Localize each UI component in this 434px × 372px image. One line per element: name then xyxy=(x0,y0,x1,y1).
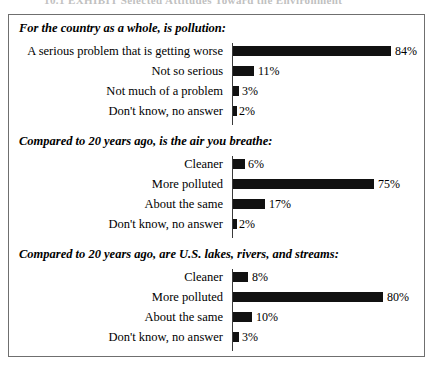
bar-row: More polluted 80% xyxy=(9,289,426,307)
chart-panel-1: For the country as a whole, is pollution… xyxy=(9,21,426,129)
bar xyxy=(233,219,237,229)
bar-row: Not much of a problem 3% xyxy=(9,83,426,101)
bar xyxy=(233,312,252,322)
bar xyxy=(233,106,237,116)
figure-frame: For the country as a whole, is pollution… xyxy=(8,14,425,357)
bar-row: About the same 10% xyxy=(9,309,426,327)
bar-row: Don't know, no answer 2% xyxy=(9,216,426,234)
bar-row: Don't know, no answer 2% xyxy=(9,103,426,121)
bar xyxy=(233,46,391,56)
bar-row: About the same 17% xyxy=(9,196,426,214)
bar-row: Cleaner 8% xyxy=(9,269,426,287)
bar xyxy=(233,332,239,342)
bar-row-label: More polluted xyxy=(9,290,227,305)
figure-caption-strip: 10.1 EXHIBIT Selected Attitudes Toward t… xyxy=(0,0,434,8)
bar-value: 2% xyxy=(239,217,255,232)
bar-value: 80% xyxy=(387,290,409,305)
bar-value: 75% xyxy=(378,177,400,192)
bar xyxy=(233,159,245,169)
bar-value: 3% xyxy=(242,330,258,345)
bar-row-label: About the same xyxy=(9,197,227,212)
bar-row: Not so serious 11% xyxy=(9,63,426,81)
bar-row-label: A serious problem that is getting worse xyxy=(9,44,227,59)
bar xyxy=(233,272,248,282)
bar-value: 11% xyxy=(258,64,280,79)
bar-row-label: Don't know, no answer xyxy=(9,330,227,345)
bar-row-label: About the same xyxy=(9,310,227,325)
panel-1-heading: For the country as a whole, is pollution… xyxy=(19,21,226,35)
bar-row-label: Cleaner xyxy=(9,270,227,285)
bar-row: A serious problem that is getting worse … xyxy=(9,43,426,61)
bar xyxy=(233,66,254,76)
bar-row-label: Cleaner xyxy=(9,157,227,172)
bar-row-label: More polluted xyxy=(9,177,227,192)
figure-caption-text: 10.1 EXHIBIT Selected Attitudes Toward t… xyxy=(44,0,434,6)
bar xyxy=(233,199,265,209)
bar-value: 6% xyxy=(248,157,264,172)
bar xyxy=(233,292,383,302)
bar-value: 3% xyxy=(242,84,258,99)
bar-value: 2% xyxy=(239,104,255,119)
panel-2-heading: Compared to 20 years ago, is the air you… xyxy=(19,134,272,148)
bar-row-label: Don't know, no answer xyxy=(9,217,227,232)
bar-value: 8% xyxy=(252,270,268,285)
bar-row: Don't know, no answer 3% xyxy=(9,329,426,347)
bar xyxy=(233,86,239,96)
bar-row-label: Not much of a problem xyxy=(9,84,227,99)
bar-row-label: Don't know, no answer xyxy=(9,104,227,119)
bar-row: More polluted 75% xyxy=(9,176,426,194)
bar-row-label: Not so serious xyxy=(9,64,227,79)
bar-row: Cleaner 6% xyxy=(9,156,426,174)
bar-value: 17% xyxy=(269,197,291,212)
panel-3-heading: Compared to 20 years ago, are U.S. lakes… xyxy=(19,247,339,261)
chart-panel-2: Compared to 20 years ago, is the air you… xyxy=(9,134,426,242)
bar xyxy=(233,179,374,189)
chart-panel-3: Compared to 20 years ago, are U.S. lakes… xyxy=(9,247,426,355)
bar-value: 10% xyxy=(256,310,278,325)
bar-value: 84% xyxy=(395,44,417,59)
